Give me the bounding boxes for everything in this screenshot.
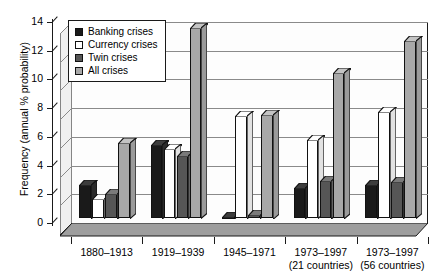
bar-banking-group-3	[222, 217, 234, 219]
bar-all-group-4	[333, 73, 345, 218]
gridline-wing-6	[60, 137, 72, 149]
bar-currency-group-5	[378, 112, 390, 218]
legend-label-currency: Currency crises	[88, 39, 157, 50]
bar-currency-group-1	[92, 199, 104, 218]
legend-item-twin-crises: Twin crises	[75, 51, 160, 64]
legend-item-all-crises: All crises	[75, 64, 160, 77]
bar-all-group-3	[261, 115, 273, 218]
bar-currency-group-3	[235, 116, 247, 218]
legend-label-twin: Twin crises	[88, 52, 137, 63]
gridline-wing-2	[60, 194, 72, 206]
x-axis-sublabel: (56 countries)	[347, 259, 437, 272]
bar-banking-group-1	[79, 185, 91, 218]
bar-side-face	[130, 138, 136, 219]
bar-all-group-5	[404, 41, 416, 218]
bar-twin-group-3	[248, 215, 260, 218]
bar-all-group-2	[190, 28, 202, 218]
y-tick-label-6: 6	[21, 130, 43, 142]
legend-item-banking-crises: Banking crises	[75, 25, 160, 38]
x-axis-period: 1973–1997	[347, 246, 437, 259]
bar-chart: Frequency (annual % probability) 0246810…	[0, 0, 438, 277]
legend-swatch-all-icon	[75, 67, 83, 75]
y-tick-label-8: 8	[21, 101, 43, 113]
floor-3d	[60, 223, 428, 237]
bar-all-group-1	[118, 143, 130, 218]
x-axis-group-label-5: 1973–1997(56 countries)	[347, 246, 437, 271]
gridline-wing-4	[60, 166, 72, 178]
y-tick-label-10: 10	[21, 72, 43, 84]
x-axis: 1880–19131919–19391945–19711973–1997(21 …	[60, 237, 438, 277]
bar-banking-group-5	[365, 185, 377, 218]
y-tick-label-0: 0	[21, 216, 43, 228]
x-tick-3	[285, 237, 286, 244]
bar-side-face	[344, 68, 350, 219]
y-tick-label-14: 14	[21, 15, 43, 27]
bar-side-face	[416, 36, 422, 219]
y-tick-label-4: 4	[21, 159, 43, 171]
x-tick-4	[357, 237, 358, 244]
legend-swatch-currency-icon	[75, 41, 83, 49]
bar-twin-group-5	[391, 182, 403, 218]
legend-swatch-twin-icon	[75, 54, 83, 62]
legend-label-all: All crises	[88, 65, 128, 76]
bar-twin-group-2	[177, 156, 189, 218]
gridline-wing-8	[60, 108, 72, 120]
x-tick-1	[142, 237, 143, 244]
y-tick-label-12: 12	[21, 44, 43, 56]
x-tick-0	[71, 237, 72, 244]
legend-item-currency-crises: Currency crises	[75, 38, 160, 51]
bar-currency-group-2	[164, 149, 176, 218]
bar-side-face	[273, 110, 279, 219]
bar-side-face	[247, 111, 253, 219]
bar-side-face	[201, 23, 207, 219]
x-tick-2	[214, 237, 215, 244]
legend: Banking crises Currency crises Twin cris…	[68, 20, 166, 82]
gridline-8	[71, 108, 428, 109]
bar-twin-group-4	[320, 181, 332, 218]
y-tick-label-2: 2	[21, 187, 43, 199]
bar-currency-group-4	[307, 140, 319, 218]
bar-twin-group-1	[105, 194, 117, 218]
bar-banking-group-2	[151, 145, 163, 218]
x-tick-5	[428, 237, 429, 244]
bar-banking-group-4	[294, 188, 306, 218]
y-tick-connector-14	[52, 16, 58, 23]
legend-swatch-banking-icon	[75, 28, 83, 36]
legend-label-banking: Banking crises	[88, 26, 153, 37]
